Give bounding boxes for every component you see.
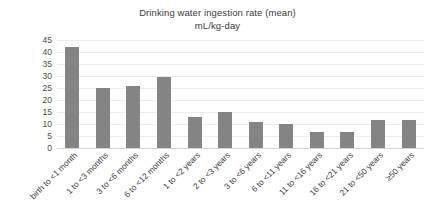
x-axis-baseline	[57, 148, 424, 149]
y-axis-tick-label: 30	[43, 72, 52, 81]
bar[interactable]	[371, 120, 385, 148]
bar[interactable]	[188, 117, 202, 148]
bar[interactable]	[96, 88, 110, 148]
plot-area	[57, 40, 424, 148]
bar-slot	[271, 40, 302, 148]
bar-slot	[118, 40, 149, 148]
bar[interactable]	[340, 132, 354, 148]
bar-slot	[393, 40, 424, 148]
bar[interactable]	[218, 112, 232, 148]
bar-slot	[363, 40, 394, 148]
y-axis-tick-label: 0	[47, 144, 52, 153]
chart-title: Drinking water ingestion rate (mean) mL/…	[0, 6, 435, 32]
bar-slot	[179, 40, 210, 148]
bar-slot	[149, 40, 180, 148]
y-axis: 454035302520151050	[0, 40, 52, 148]
bar-slot	[240, 40, 271, 148]
bar-slot	[88, 40, 119, 148]
bar[interactable]	[402, 120, 416, 148]
bar[interactable]	[249, 122, 263, 148]
x-axis-tick-label: ≥50 years	[383, 150, 416, 183]
y-axis-tick-label: 10	[43, 120, 52, 129]
chart-title-line1: Drinking water ingestion rate (mean)	[139, 7, 296, 18]
x-axis: birth to <1 month1 to <3 months3 to <6 m…	[57, 150, 424, 222]
y-axis-tick-label: 15	[43, 108, 52, 117]
bar[interactable]	[157, 77, 171, 148]
bar[interactable]	[126, 86, 140, 148]
bar[interactable]	[279, 124, 293, 148]
bar-slot	[210, 40, 241, 148]
bar[interactable]	[65, 47, 79, 148]
chart-container: Drinking water ingestion rate (mean) mL/…	[0, 0, 435, 222]
bar-slot	[57, 40, 88, 148]
y-axis-tick-label: 45	[43, 36, 52, 45]
bar-slot	[302, 40, 333, 148]
bar-slot	[332, 40, 363, 148]
bar[interactable]	[310, 132, 324, 148]
chart-title-line2: mL/kg-day	[0, 19, 435, 32]
y-axis-tick-label: 25	[43, 84, 52, 93]
bar-series	[57, 40, 424, 148]
y-axis-tick-label: 35	[43, 60, 52, 69]
y-axis-tick-label: 40	[43, 48, 52, 57]
y-axis-tick-label: 5	[47, 132, 52, 141]
y-axis-tick-label: 20	[43, 96, 52, 105]
